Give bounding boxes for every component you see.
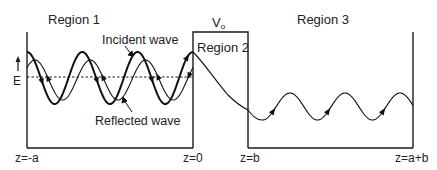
incident-wave-label: Incident wave [102, 34, 178, 47]
position-label-b: z=b [240, 152, 260, 164]
barrier-height-label: Vo [212, 16, 225, 31]
barrier-height-subscript: o [221, 22, 225, 31]
position-label-zero: z=0 [183, 152, 203, 164]
region-1-label: Region 1 [48, 13, 100, 26]
position-label-minus-a: z=-a [15, 152, 39, 164]
reflected-wave [27, 60, 193, 100]
region-2-label: Region 2 [197, 41, 249, 54]
position-label-a-plus-b: z=a+b [395, 152, 428, 164]
evanescent-wave [193, 52, 248, 110]
region-3-label: Region 3 [297, 13, 349, 26]
reflected-wave-label: Reflected wave [95, 115, 180, 128]
transmitted-wave [248, 93, 413, 120]
energy-arrow-icon [16, 56, 21, 71]
energy-label: E [13, 75, 21, 87]
barrier-height-symbol: V [212, 15, 221, 30]
